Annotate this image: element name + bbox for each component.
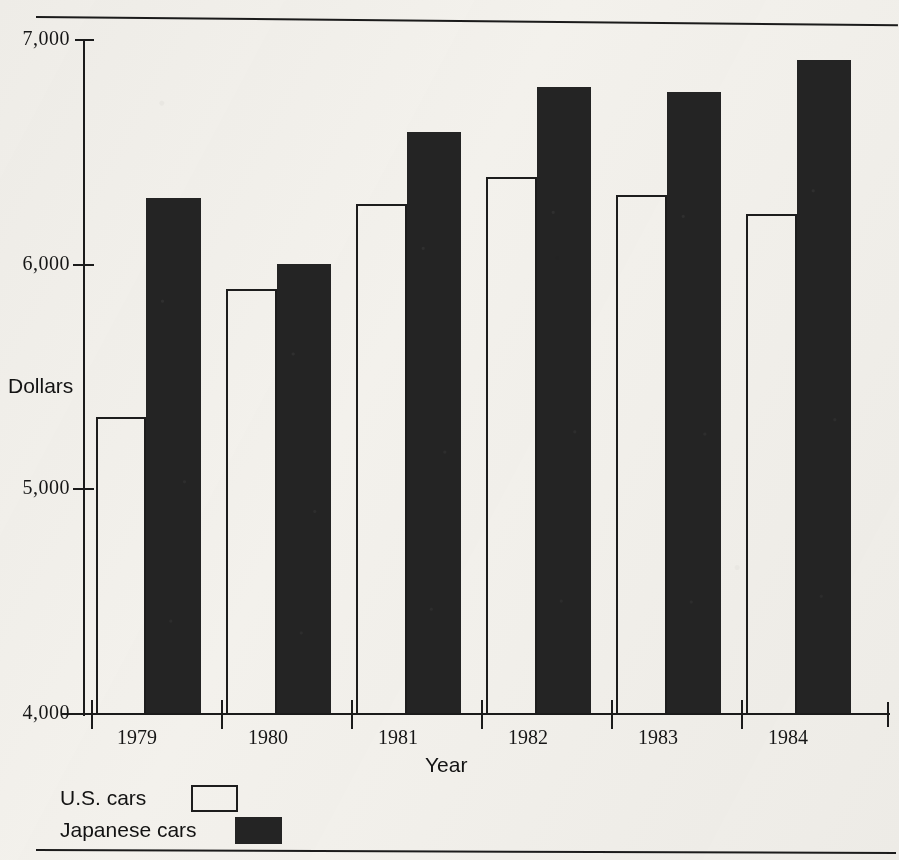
x-tick-label-1982: 1982 xyxy=(483,726,573,749)
chart-legend: U.S. cars Japanese cars xyxy=(60,782,282,846)
legend-swatch-japanese-cars xyxy=(235,817,282,844)
x-tick-1983 xyxy=(611,700,613,729)
y-tick-label-4000: 4,000 xyxy=(0,701,70,724)
bar-japanese-cars-1980 xyxy=(277,264,331,714)
bar-japanese-cars-1979 xyxy=(146,198,201,714)
x-tick-1981 xyxy=(351,700,353,729)
y-tick-label-6000: 6,000 xyxy=(0,252,70,275)
y-tick-5000 xyxy=(73,488,94,490)
bar-us-cars-1983 xyxy=(616,195,667,714)
legend-label-us-cars: U.S. cars xyxy=(60,786,191,810)
bar-us-cars-1984 xyxy=(746,214,797,714)
y-tick-label-7000: 7,000 xyxy=(0,27,70,50)
x-tick-1982 xyxy=(481,700,483,729)
y-axis-title: Dollars xyxy=(8,374,73,398)
x-tick-1979 xyxy=(91,700,93,729)
x-axis-line xyxy=(62,713,890,715)
legend-item-us-cars: U.S. cars xyxy=(60,782,282,814)
x-tick-label-1983: 1983 xyxy=(613,726,703,749)
bar-japanese-cars-1981 xyxy=(407,132,461,714)
y-tick-6000 xyxy=(73,264,94,266)
bar-us-cars-1979 xyxy=(96,417,146,714)
x-tick-label-1984: 1984 xyxy=(743,726,833,749)
x-tick-label-1980: 1980 xyxy=(223,726,313,749)
y-tick-label-5000: 5,000 xyxy=(0,476,70,499)
bar-japanese-cars-1983 xyxy=(667,92,721,714)
legend-label-japanese-cars: Japanese cars xyxy=(60,818,235,842)
bar-us-cars-1982 xyxy=(486,177,537,714)
x-axis-title: Year xyxy=(425,753,467,777)
x-tick-label-1981: 1981 xyxy=(353,726,443,749)
x-tick-1980 xyxy=(221,700,223,729)
bar-japanese-cars-1982 xyxy=(537,87,591,714)
bar-japanese-cars-1984 xyxy=(797,60,851,714)
y-tick-7000 xyxy=(75,39,94,41)
bar-us-cars-1980 xyxy=(226,289,277,714)
x-tick-1984 xyxy=(741,700,743,729)
legend-item-japanese-cars: Japanese cars xyxy=(60,814,282,846)
legend-swatch-us-cars xyxy=(191,785,238,812)
plot-area: 4,0005,0006,0007,000 1979198019811982198… xyxy=(0,0,899,860)
x-tick-label-1979: 1979 xyxy=(92,726,182,749)
chart-figure: 4,0005,0006,0007,000 1979198019811982198… xyxy=(0,0,899,860)
x-axis-end-tick xyxy=(887,702,889,727)
bar-us-cars-1981 xyxy=(356,204,407,714)
y-axis-line xyxy=(83,40,85,716)
